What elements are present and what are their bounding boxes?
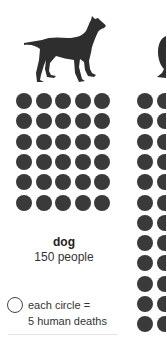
- data-circle: [94, 113, 110, 129]
- data-circle: [36, 113, 52, 129]
- divider: [8, 334, 118, 335]
- data-circle: [36, 93, 52, 109]
- data-circle: [16, 93, 32, 109]
- data-circle: [55, 174, 71, 190]
- data-circle: [137, 235, 153, 251]
- data-circle: [55, 134, 71, 150]
- data-circle: [75, 154, 91, 170]
- data-circle: [157, 154, 167, 170]
- data-circle: [36, 174, 52, 190]
- data-circle: [55, 113, 71, 129]
- data-circle: [94, 154, 110, 170]
- data-circle: [36, 195, 52, 211]
- data-circle: [16, 113, 32, 129]
- circle-outline-icon: [7, 297, 23, 313]
- data-circle: [36, 154, 52, 170]
- data-circle: [75, 93, 91, 109]
- data-circle: [157, 113, 167, 129]
- data-circle: [75, 195, 91, 211]
- data-circle: [94, 174, 110, 190]
- legend-line-2: 5 human deaths: [28, 315, 107, 327]
- data-circle: [94, 93, 110, 109]
- data-circle: [75, 113, 91, 129]
- data-circle: [157, 276, 167, 292]
- data-circle: [55, 93, 71, 109]
- data-circle: [157, 235, 167, 251]
- human-head-icon: [156, 36, 166, 78]
- data-circle: [137, 255, 153, 271]
- data-circle: [16, 195, 32, 211]
- data-circle: [137, 93, 153, 109]
- category-value: 150 people: [0, 250, 128, 264]
- data-circle: [16, 174, 32, 190]
- data-circle: [36, 134, 52, 150]
- data-circle: [157, 134, 167, 150]
- data-circle: [137, 154, 153, 170]
- data-circle: [137, 174, 153, 190]
- data-circle: [157, 296, 167, 312]
- data-circle: [157, 215, 167, 231]
- data-circle: [94, 195, 110, 211]
- data-circle: [55, 195, 71, 211]
- data-circle: [137, 296, 153, 312]
- data-circle: [157, 93, 167, 109]
- data-circle: [157, 195, 167, 211]
- data-circle: [157, 255, 167, 271]
- dog-icon: [22, 15, 108, 83]
- data-circle: [75, 134, 91, 150]
- data-circle: [137, 316, 153, 332]
- category-label: dog: [0, 235, 128, 249]
- data-circle: [16, 134, 32, 150]
- data-circle: [75, 174, 91, 190]
- data-circle: [137, 113, 153, 129]
- data-circle: [137, 215, 153, 231]
- data-circle: [16, 154, 32, 170]
- data-circle: [137, 134, 153, 150]
- data-circle: [137, 195, 153, 211]
- data-circle: [157, 174, 167, 190]
- data-circle: [94, 134, 110, 150]
- data-circle: [157, 316, 167, 332]
- legend-line-1: each circle =: [28, 299, 90, 311]
- data-circle: [55, 154, 71, 170]
- data-circle: [137, 276, 153, 292]
